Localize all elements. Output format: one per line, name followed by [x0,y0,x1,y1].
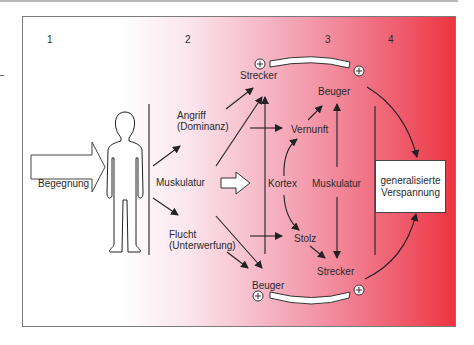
dominanz-label: (Dominanz) [177,121,229,132]
strecker-bottom-label: Strecker [317,266,354,277]
box-line-1: generalisierte [380,175,440,187]
box-line-2: Verspannung [381,187,440,199]
column-number-1: 1 [47,34,53,45]
muskulatur-col3-label: Muskulatur [312,178,361,189]
unterwerfung-label: (Unterwerfung) [169,240,236,251]
generalisierte-verspannung-box: generalisierte Verspannung [375,160,446,213]
stolz-label: Stolz [294,233,316,244]
beuger-bottom-label: Beuger [252,280,284,291]
begegnung-label: Begegnung [38,178,89,189]
kortex-label: Kortex [268,178,297,189]
vernunft-label: Vernunft [291,124,328,135]
column-number-4: 4 [388,34,394,45]
top-bow [270,57,350,68]
human-figure-icon [107,112,143,252]
strecker-top-label: Strecker [240,70,277,81]
column-number-3: 3 [325,34,331,45]
angriff-label: Angriff [177,110,206,121]
bottom-bow [270,292,350,304]
hollow-arrow [221,172,250,194]
column-number-2: 2 [185,34,191,45]
beuger-top-label: Beuger [318,86,350,97]
muskulatur-col2-label: Muskulatur [156,177,205,188]
flucht-label: Flucht [169,229,196,240]
